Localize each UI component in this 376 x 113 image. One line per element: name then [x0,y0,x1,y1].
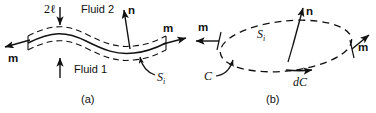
surface-ellipse-b [218,14,355,78]
conormal-label-left-b: m [198,22,208,34]
tangent-vector-left-a [5,40,30,47]
panel-b-graphics [196,8,369,78]
fluid-lower-label: Fluid 1 [74,64,107,75]
contour-element-arrow [286,70,312,71]
tangent-label-left-a: m [8,53,18,65]
figure-root: 2ℓ Fluid 2 Fluid 1 n m m Si (a) m n Si m… [0,0,376,113]
fluid-upper-label: Fluid 2 [81,4,114,15]
panel-b-caption: (b) [266,94,279,105]
surface-label-b: Si [257,28,265,43]
normal-vector-b [293,8,303,45]
contour-leader-b [216,60,233,76]
tangent-label-right-a: m [163,23,173,35]
normal-vector-b-below [288,45,293,62]
normal-label-b: n [306,6,313,18]
panel-a-caption: (a) [81,94,94,105]
figure-canvas [0,0,376,113]
thickness-label: 2ℓ [44,3,56,15]
conormal-label-right-b: m [358,42,368,54]
contour-element-label-b: dC [293,76,307,88]
surface-leader-a [140,57,155,75]
surface-label-a: Si [157,71,165,86]
normal-label-a: n [128,5,135,17]
layer-upper-boundary [28,27,166,47]
contour-label-b: C [204,70,212,82]
